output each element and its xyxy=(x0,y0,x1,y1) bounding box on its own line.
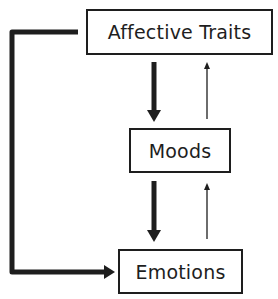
node-emotions: Emotions xyxy=(118,249,243,294)
node-moods: Moods xyxy=(129,128,231,173)
arrowhead-up-icon xyxy=(204,62,210,69)
node-label: Moods xyxy=(149,140,212,162)
node-label: Emotions xyxy=(135,261,225,283)
arrowhead-down-icon xyxy=(147,230,161,242)
node-affective-traits: Affective Traits xyxy=(86,9,273,55)
bypass-connector xyxy=(12,32,106,272)
arrowhead-up-icon xyxy=(204,183,210,190)
arrowhead-right-icon xyxy=(104,265,115,279)
arrowhead-down-icon xyxy=(147,110,161,122)
node-label: Affective Traits xyxy=(108,21,252,43)
